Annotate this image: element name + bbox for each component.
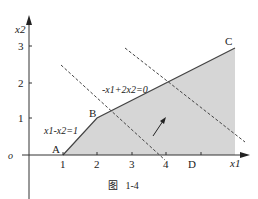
y-tick-label-3: 3 xyxy=(18,40,24,52)
point-c-label: C xyxy=(225,35,232,47)
point-b-label: B xyxy=(89,107,96,119)
x-axis-label: x1 xyxy=(229,157,240,169)
linear-programming-figure: x2 o x1 1 2 3 4 1 2 3 A B C D x1-x2=1 -x… xyxy=(0,0,258,199)
objective-line-label: -x1+2x2=0 xyxy=(102,84,148,95)
point-a-label: A xyxy=(52,143,60,155)
x-axis-arrow-icon xyxy=(240,152,250,158)
feasible-region xyxy=(63,48,235,155)
y-tick-label-1: 1 xyxy=(18,112,24,124)
origin-label: o xyxy=(8,150,13,161)
x-tick-label-4: 4 xyxy=(163,158,169,170)
x-tick-label-1: 1 xyxy=(60,158,66,170)
constraint-line-label: x1-x2=1 xyxy=(43,125,78,136)
y-tick-label-2: 2 xyxy=(18,77,24,89)
x-tick-label-3: 3 xyxy=(129,158,135,170)
y-axis-arrow-icon xyxy=(26,15,32,25)
point-d-label: D xyxy=(188,158,196,170)
y-axis-label: x2 xyxy=(14,23,26,35)
figure-caption: 图 1-4 xyxy=(108,180,139,191)
x-tick-label-2: 2 xyxy=(94,158,100,170)
